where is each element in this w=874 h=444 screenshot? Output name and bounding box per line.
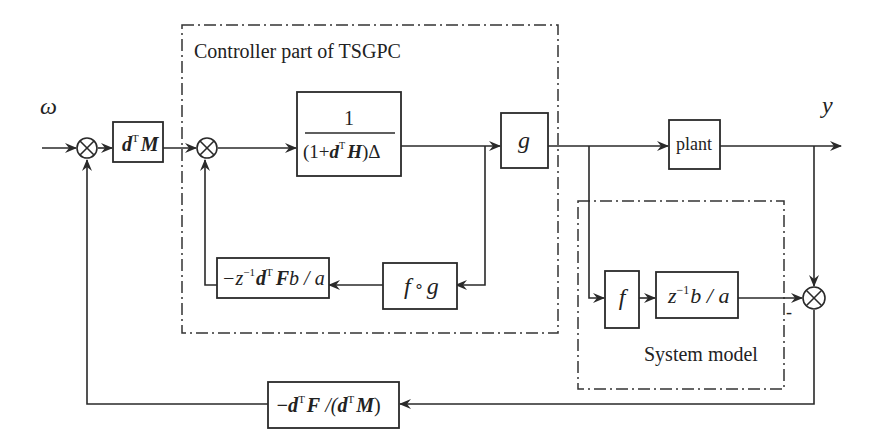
svg-text:1: 1	[344, 107, 354, 129]
svg-text:dTM: dTM	[122, 132, 160, 155]
output-signal-label: y	[820, 92, 833, 118]
model-transfer-block: z−1b / a	[656, 272, 738, 318]
system-model-group-label: System model	[644, 343, 758, 366]
svg-text:−dTF /(dTM): −dTF /(dTM)	[276, 393, 381, 417]
sum-junction-1	[77, 138, 97, 158]
inner-feedback-block: −z−1dTFb / a	[217, 258, 329, 298]
plant-block: plant	[669, 120, 720, 169]
tap-to-fog-arrow	[456, 146, 485, 285]
f-block: f	[605, 271, 639, 328]
outer-feedback-block: −dTF /(dTM)	[268, 382, 399, 428]
input-signal-label: ω	[40, 93, 57, 119]
inner-feedback-to-sum2-arrow	[205, 160, 217, 285]
minus-sign: -	[786, 302, 792, 322]
controller-group-label: Controller part of TSGPC	[194, 40, 401, 63]
integrator-block: 1 (1+dTH)Δ	[297, 92, 401, 176]
svg-text:plant: plant	[676, 134, 712, 154]
sum-junction-2	[197, 138, 217, 158]
sum-junction-3	[803, 287, 825, 309]
g-block: g	[501, 113, 548, 168]
block-diagram: Controller part of TSGPC System model ω …	[0, 0, 874, 444]
svg-text:g: g	[518, 127, 530, 153]
dTM-block: dTM	[113, 122, 163, 162]
tap-to-f-arrow	[589, 146, 604, 298]
f-compose-g-block: f∘g	[383, 263, 457, 309]
svg-text:z−1b / a: z−1b / a	[667, 283, 729, 308]
